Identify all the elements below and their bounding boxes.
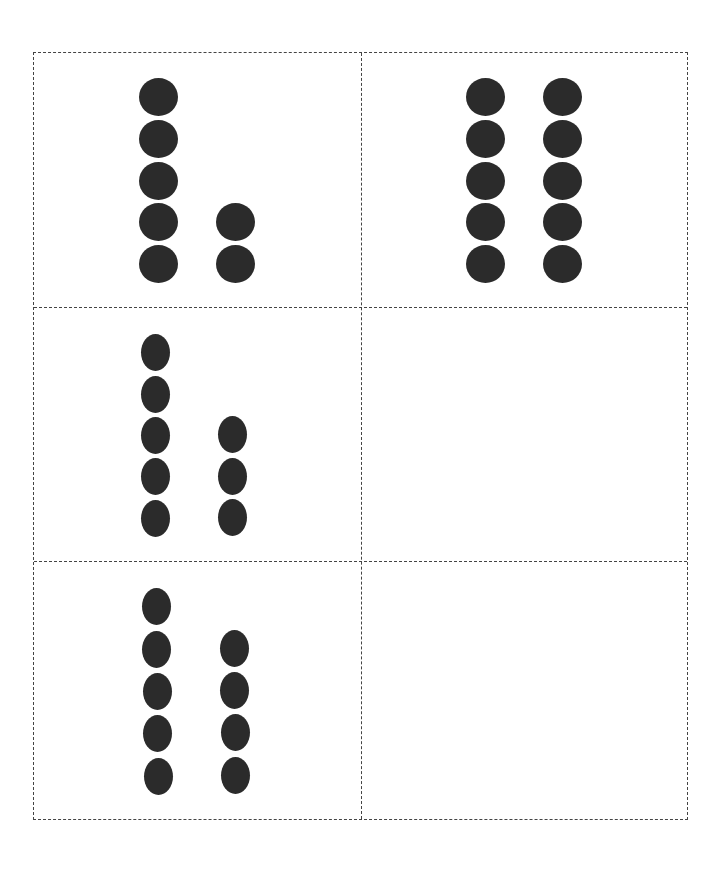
dot-card-grid [33, 52, 688, 820]
counting-dot [221, 714, 250, 751]
counting-dot [221, 757, 250, 794]
counting-dot [141, 500, 170, 537]
counting-dot [143, 673, 172, 710]
counting-dot [141, 458, 170, 495]
counting-dot [220, 630, 249, 667]
counting-dot [142, 631, 171, 668]
counting-dot [218, 458, 247, 495]
counting-dot [543, 245, 582, 283]
counting-dot [543, 78, 582, 116]
column-divider [361, 53, 362, 819]
counting-dot [139, 203, 178, 241]
counting-dot [216, 245, 255, 283]
worksheet-page [0, 0, 722, 884]
counting-dot [543, 162, 582, 200]
counting-dot [139, 245, 178, 283]
counting-dot [466, 245, 505, 283]
counting-dot [142, 588, 171, 625]
counting-dot [141, 417, 170, 454]
counting-dot [220, 672, 249, 709]
counting-dot [543, 120, 582, 158]
counting-dot [139, 78, 178, 116]
counting-dot [141, 334, 170, 371]
counting-dot [141, 376, 170, 413]
counting-dot [543, 203, 582, 241]
counting-dot [466, 203, 505, 241]
counting-dot [139, 120, 178, 158]
counting-dot [143, 715, 172, 752]
counting-dot [466, 162, 505, 200]
counting-dot [218, 416, 247, 453]
counting-dot [218, 499, 247, 536]
counting-dot [144, 758, 173, 795]
counting-dot [139, 162, 178, 200]
row-divider-2 [34, 561, 687, 562]
row-divider-1 [34, 307, 687, 308]
counting-dot [466, 120, 505, 158]
counting-dot [216, 203, 255, 241]
counting-dot [466, 78, 505, 116]
